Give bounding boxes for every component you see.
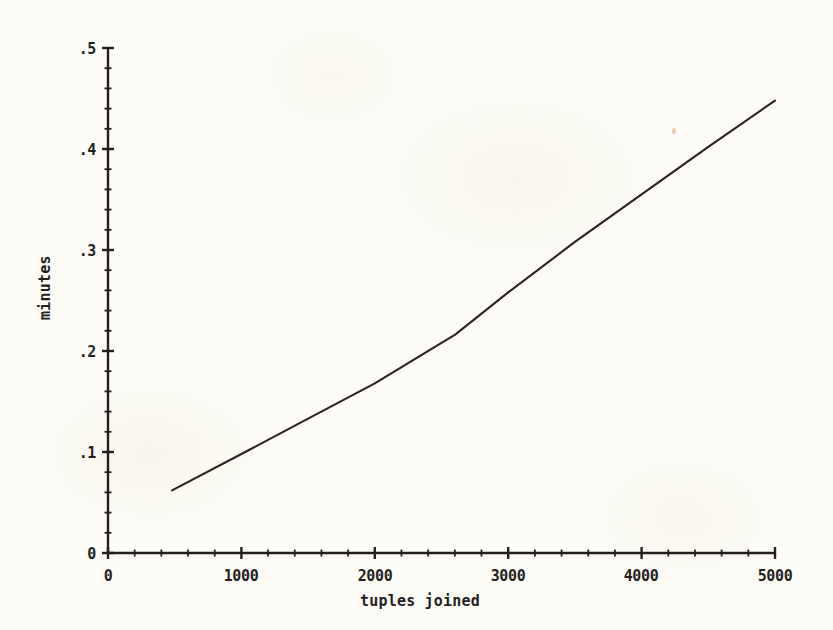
x-tick-label-4000: 4000 [611,567,671,585]
axis-lines [108,48,775,553]
x-tick-label-1000: 1000 [211,567,271,585]
data-series-line [172,101,775,491]
y-tick-label-2: .2 [60,343,96,361]
y-tick-label-1: .1 [60,444,96,462]
x-tick-label-3000: 3000 [478,567,538,585]
y-tick-label-0: 0 [60,545,96,563]
x-tick-label-0: 0 [78,567,138,585]
y-tick-label-5: .5 [60,40,96,58]
plot-canvas [0,0,833,630]
y-tick-label-4: .4 [60,141,96,159]
y-axis-title: minutes [36,255,54,320]
y-tick-label-3: .3 [60,242,96,260]
chart-figure: .5 .4 .3 .2 .1 0 0 1000 2000 3000 4000 5… [0,0,833,630]
x-tick-label-5000: 5000 [745,567,805,585]
x-tick-label-2000: 2000 [345,567,405,585]
x-axis-title: tuples joined [335,592,505,610]
scan-artifact-speck [672,128,676,134]
